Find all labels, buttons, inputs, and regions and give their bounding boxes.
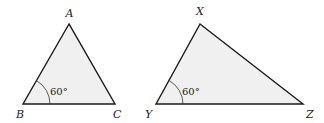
angle-label-y: 60°	[182, 86, 200, 97]
diagram-canvas: A B C 60° X Y Z 60°	[0, 0, 324, 123]
triangle-abc: A B C 60°	[15, 7, 122, 121]
triangle-abc-shape	[23, 24, 115, 104]
vertex-label-b: B	[15, 108, 24, 121]
vertex-label-z: Z	[305, 108, 314, 121]
angle-label-b: 60°	[50, 86, 68, 97]
vertex-label-c: C	[113, 108, 122, 121]
vertex-label-y: Y	[145, 108, 154, 121]
triangle-xyz: X Y Z 60°	[145, 5, 314, 121]
triangle-xyz-shape	[156, 24, 303, 104]
vertex-label-x: X	[195, 5, 205, 18]
vertex-label-a: A	[65, 7, 74, 20]
